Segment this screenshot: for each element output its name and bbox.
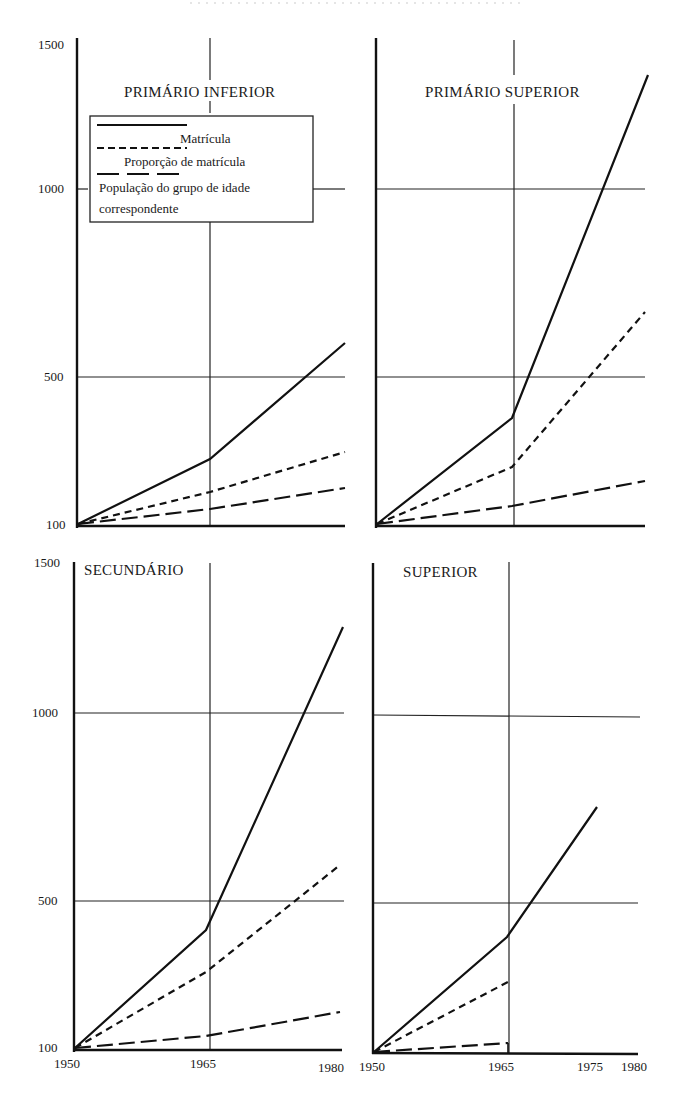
legend-label-populacao-line2: correspondente	[99, 201, 179, 216]
legend: Matrícula Proporção de matrícula Populaç…	[90, 116, 313, 222]
x-tick-1965: 1965	[190, 1056, 216, 1071]
panel-superior: SUPERIOR 1950 1965 1975 1980	[359, 562, 647, 1074]
series-populacao	[78, 488, 345, 524]
x-tick-1975: 1975	[577, 1059, 603, 1074]
y-tick-100: 100	[46, 517, 66, 532]
panel-title: SUPERIOR	[403, 564, 478, 580]
legend-label-populacao: População do grupo de idade	[99, 180, 250, 195]
series-matricula	[374, 807, 597, 1052]
x-axis	[372, 1053, 638, 1054]
panel-title: PRIMÁRIO INFERIOR	[124, 84, 275, 100]
y-tick-1500: 1500	[34, 555, 60, 570]
y-tick-1500: 1500	[38, 37, 64, 52]
panel-primario-inferior: 1500 1000 500 100 PRIMÁRIO INFERIOR Matr…	[38, 37, 345, 532]
gridline-1000	[373, 715, 640, 717]
series-proporcao	[374, 982, 508, 1052]
x-tick-1950: 1950	[359, 1059, 385, 1074]
x-tick-1950: 1950	[54, 1056, 80, 1071]
series-populacao	[377, 481, 645, 524]
panel-title: PRIMÁRIO SUPERIOR	[425, 84, 580, 100]
x-tick-1980: 1980	[621, 1059, 647, 1074]
y-tick-1000: 1000	[32, 705, 58, 720]
y-tick-100: 100	[38, 1040, 58, 1055]
x-tick-1965: 1965	[488, 1059, 514, 1074]
x-tick-1980: 1980	[318, 1060, 344, 1075]
y-tick-1000: 1000	[38, 181, 64, 196]
series-proporcao	[75, 865, 340, 1048]
legend-label-matricula: Matrícula	[180, 131, 231, 146]
series-proporcao	[78, 452, 345, 524]
y-tick-500: 500	[38, 893, 58, 908]
legend-label-proporcao: Proporção de matrícula	[124, 154, 246, 169]
panel-secundario: 1500 1000 500 100 SECUNDÁRIO 1950 1965 1…	[32, 555, 344, 1075]
series-matricula	[377, 75, 648, 524]
series-populacao	[75, 1012, 340, 1048]
panel-primario-superior: PRIMÁRIO SUPERIOR	[375, 38, 648, 528]
y-tick-500: 500	[44, 369, 64, 384]
enrollment-growth-figure: 1500 1000 500 100 PRIMÁRIO INFERIOR Matr…	[0, 0, 680, 1108]
panel-title: SECUNDÁRIO	[84, 562, 184, 578]
series-matricula	[78, 343, 345, 524]
series-matricula	[75, 627, 343, 1048]
series-populacao	[374, 1043, 508, 1052]
